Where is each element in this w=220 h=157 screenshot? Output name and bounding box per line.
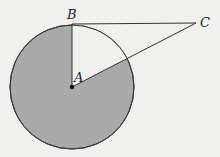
geometry-diagram: B C A	[0, 0, 220, 157]
segment-BC	[72, 23, 196, 24]
label-A: A	[73, 70, 83, 85]
label-C: C	[200, 15, 210, 30]
center-point-A	[70, 85, 74, 89]
label-B: B	[66, 7, 77, 22]
